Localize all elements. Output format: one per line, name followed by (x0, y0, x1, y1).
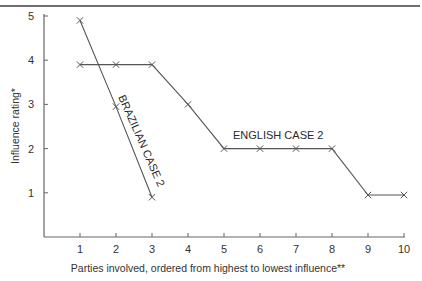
x-marker-icon (149, 194, 155, 200)
x-tick-label: 4 (185, 243, 191, 255)
y-axis-label: Influence rating* (9, 88, 21, 164)
x-tick-label: 5 (221, 243, 227, 255)
y-tick-label: 2 (28, 143, 34, 155)
x-tick-label: 8 (329, 243, 335, 255)
y-tick-label: 4 (28, 54, 34, 66)
x-marker-icon (113, 103, 119, 109)
series-label-brazilian: BRAZILIAN CASE 2 (116, 93, 167, 188)
x-tick-label: 10 (398, 243, 410, 255)
x-tick-label: 7 (293, 243, 299, 255)
x-marker-icon (77, 17, 83, 23)
x-tick-label: 3 (149, 243, 155, 255)
x-axis-label: Parties involved, ordered from highest t… (71, 262, 345, 274)
y-tick-label: 3 (28, 98, 34, 110)
series-label-english: ENGLISH CASE 2 (233, 129, 323, 141)
y-tick-label: 1 (28, 187, 34, 199)
x-tick-label: 6 (257, 243, 263, 255)
x-marker-icon (185, 101, 191, 107)
line-chart: 1234512345678910 BRAZILIAN CASE 2 ENGLIS… (0, 0, 422, 281)
x-tick-label: 1 (77, 243, 83, 255)
y-tick-label: 5 (28, 10, 34, 22)
x-tick-label: 2 (113, 243, 119, 255)
x-tick-label: 9 (365, 243, 371, 255)
series-line-brazilian (80, 20, 152, 197)
axes: 1234512345678910 (28, 10, 410, 255)
